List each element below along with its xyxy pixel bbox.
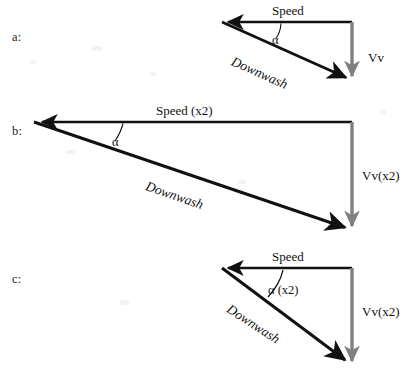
row-label-c: c:: [12, 272, 21, 287]
speed-label-a: Speed: [272, 3, 304, 19]
row-label-a: a:: [12, 30, 21, 45]
angle-label-c: α (x2): [268, 283, 299, 298]
diagram-row-b: [34, 122, 352, 228]
vector-diagram-figure: a: Speed α Downwash Vv b: Speed (x2) α D…: [0, 0, 415, 372]
angle-label-a: α: [272, 33, 279, 48]
vv-label-a: Vv: [368, 50, 384, 66]
vector-canvas: [0, 0, 415, 372]
vv-label-c: Vv(x2): [362, 304, 400, 320]
row-label-b: b:: [12, 124, 22, 139]
speed-label-b: Speed (x2): [156, 103, 213, 119]
speed-label-c: Speed: [272, 249, 304, 265]
vv-label-b: Vv(x2): [362, 168, 400, 184]
angle-label-b: α: [112, 135, 119, 150]
downwash-vector-b: [34, 122, 345, 228]
